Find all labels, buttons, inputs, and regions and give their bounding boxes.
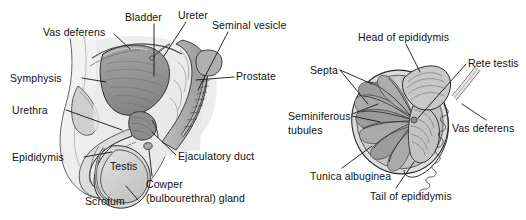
label-cowper-line2: (bulbourethral) gland [146,192,245,204]
label-rete-testis: Rete testis [468,57,519,69]
label-prostate: Prostate [236,70,276,82]
label-symphysis: Symphysis [10,72,62,84]
label-bladder: Bladder [125,11,162,23]
label-vas-deferens-right: Vas deferens [452,122,514,134]
label-scrotum: Scrotum [85,195,125,207]
label-epididymis: Epididymis [12,151,64,163]
cowper-gland [144,143,152,150]
label-ureter: Ureter [178,9,208,21]
label-cowper-line1: Cowper [146,178,183,190]
label-vas-deferens-left: Vas deferens [43,26,105,38]
label-seminiferous-line2: tubules [288,124,323,136]
label-head-of-epididymis: Head of epididymis [358,31,449,43]
label-ejaculatory-duct: Ejaculatory duct [178,150,254,162]
label-tunica-albuginea: Tunica albuginea [310,170,391,182]
label-testis: Testis [110,160,137,172]
label-seminiferous-line1: Seminiferous [288,110,350,122]
label-urethra: Urethra [12,104,48,116]
label-tail-of-epididymis: Tail of epididymis [370,190,452,202]
label-septa: Septa [310,64,338,76]
label-seminal-vesicle: Seminal vesicle [212,19,286,31]
